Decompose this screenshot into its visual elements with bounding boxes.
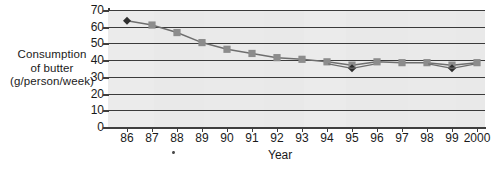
x-axis-tick-mark — [177, 127, 178, 132]
x-axis-tick-mark — [452, 127, 453, 132]
x-axis-tick-mark — [402, 127, 403, 132]
x-axis-tick-label: 92 — [270, 131, 283, 145]
x-axis-tick-mark — [277, 127, 278, 132]
y-axis-tick-label: 70 — [80, 4, 104, 16]
data-point-diamond — [123, 17, 131, 25]
x-axis-tick-mark — [302, 127, 303, 132]
x-axis-tick-mark — [227, 127, 228, 132]
x-axis-tick-label: 87 — [145, 131, 158, 145]
y-axis-tick-label: 50 — [80, 37, 104, 49]
x-axis-tick-mark — [477, 127, 478, 132]
x-axis-tick-label: 93 — [295, 131, 308, 145]
data-point-square — [298, 56, 305, 63]
data-point-square — [373, 58, 380, 65]
y-axis-tick-labels: 010203040506070 — [80, 0, 104, 172]
x-axis-tick-label: 95 — [345, 131, 358, 145]
x-axis-tick-label: 86 — [120, 131, 133, 145]
x-axis-tick-label: 89 — [195, 131, 208, 145]
data-point-square — [473, 59, 480, 66]
y-axis-tick-mark — [103, 60, 109, 62]
x-axis-tick-label: 88 — [170, 131, 183, 145]
y-axis-tick-label: 30 — [80, 71, 104, 83]
y-axis-tick-mark — [103, 27, 109, 29]
x-axis-tick-mark — [327, 127, 328, 132]
y-axis-tick-mark — [103, 127, 109, 129]
x-axis-tick-mark — [352, 127, 353, 132]
series-layer — [108, 10, 485, 127]
data-point-square — [198, 39, 205, 46]
y-axis-tick-mark — [103, 110, 109, 112]
x-axis-tick-label: 2000 — [464, 131, 491, 145]
x-axis-tick-label: 90 — [220, 131, 233, 145]
x-axis-tick-label: 98 — [420, 131, 433, 145]
y-axis-tick-mark — [103, 77, 109, 79]
data-point-square — [223, 46, 230, 53]
x-axis-tick-label: 96 — [370, 131, 383, 145]
x-axis-tick-mark — [252, 127, 253, 132]
scan-artifact-speck — [172, 151, 176, 155]
data-point-square — [398, 59, 405, 66]
x-axis-tick-label: 99 — [445, 131, 458, 145]
y-axis-tick-mark — [103, 43, 109, 45]
x-axis-tick-label: 91 — [245, 131, 258, 145]
y-axis-tick-label: 40 — [80, 54, 104, 66]
y-axis-tick-mark — [103, 10, 109, 12]
x-axis-line — [107, 127, 486, 129]
data-point-square — [273, 54, 280, 61]
data-point-square — [148, 21, 155, 28]
x-axis-tick-label: 94 — [320, 131, 333, 145]
y-axis-tick-label: 10 — [80, 104, 104, 116]
x-axis-tick-mark — [202, 127, 203, 132]
data-point-square — [423, 59, 430, 66]
chart-figure: Consumption of butter (g/person/week) 01… — [0, 0, 497, 172]
y-axis-tick-label: 60 — [80, 21, 104, 33]
y-axis-tick-label: 0 — [80, 121, 104, 133]
x-axis-tick-mark — [377, 127, 378, 132]
x-axis-tick-mark — [127, 127, 128, 132]
x-axis-tick-mark — [152, 127, 153, 132]
plot-area — [108, 10, 485, 127]
x-axis-tick-label: 97 — [395, 131, 408, 145]
x-axis-title: Year — [268, 148, 292, 162]
x-axis-tick-mark — [427, 127, 428, 132]
y-axis-tick-label: 20 — [80, 88, 104, 100]
data-point-square — [173, 29, 180, 36]
data-point-square — [248, 50, 255, 57]
y-axis-tick-mark — [103, 94, 109, 96]
